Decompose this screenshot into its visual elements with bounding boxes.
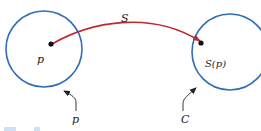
left-circle-pointer (64, 91, 76, 111)
caption-fragment (4, 127, 16, 131)
left-circle-label: p (72, 113, 79, 126)
right-circle-pointer (183, 88, 196, 111)
mapping-diagram: S p S(p) p C (0, 0, 261, 131)
caption-fragment (34, 127, 40, 131)
map-label: S (121, 12, 129, 25)
left-point-label: p (37, 53, 44, 66)
left-circle (6, 11, 82, 87)
right-circle (192, 14, 261, 90)
right-point-label: S(p) (205, 58, 226, 69)
point-p (48, 41, 53, 46)
right-circle-label: C (181, 113, 190, 126)
point-s-of-p (198, 40, 203, 45)
